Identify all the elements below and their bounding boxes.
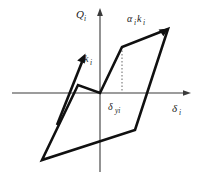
post-yield-stiffness-alpha-subscript: i bbox=[134, 18, 136, 27]
initial-stiffness-label: k i bbox=[84, 53, 92, 67]
post-yield-stiffness-k-subscript: i bbox=[143, 18, 145, 27]
yield-displacement-label-subscript: yi bbox=[114, 106, 120, 115]
force-axis-label: Q i bbox=[76, 8, 86, 23]
post-yield-stiffness-label: α i k i bbox=[127, 13, 145, 27]
yield-displacement-label: δ yi bbox=[108, 101, 120, 115]
displacement-axis-label-subscript: i bbox=[179, 108, 181, 117]
force-axis-arrowhead bbox=[97, 8, 103, 16]
yield-displacement-label-text: δ bbox=[108, 101, 113, 112]
figure-container: Q i δ i k i α i k i δ yi bbox=[0, 0, 200, 179]
force-axis-label-text: Q bbox=[76, 8, 84, 20]
post-yield-stiffness-alpha: α bbox=[127, 13, 133, 24]
displacement-axis-label: δ i bbox=[172, 102, 181, 117]
initial-stiffness-label-text: k bbox=[84, 53, 89, 64]
displacement-axis-label-text: δ bbox=[172, 102, 178, 114]
hysteresis-diagram: Q i δ i k i α i k i δ yi bbox=[0, 0, 200, 179]
force-axis-label-subscript: i bbox=[84, 14, 86, 23]
initial-stiffness-label-subscript: i bbox=[90, 58, 92, 67]
hysteresis-loop-path bbox=[42, 29, 168, 160]
displacement-axis-arrowhead bbox=[183, 90, 191, 96]
loading-branch-direction-arrow bbox=[57, 54, 86, 126]
post-yield-stiffness-k: k bbox=[137, 13, 142, 24]
